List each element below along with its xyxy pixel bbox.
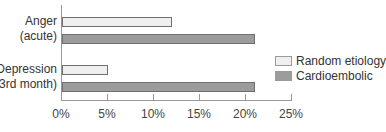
x-axis-line (61, 100, 292, 101)
x-tick (245, 94, 246, 101)
legend-label: Random etiology (296, 54, 386, 68)
x-tick-label: 5% (98, 107, 115, 121)
legend-label: Cardioembolic (296, 69, 373, 83)
x-tick (291, 94, 292, 101)
x-tick-label: 20% (233, 107, 257, 121)
x-tick-label: 15% (187, 107, 211, 121)
bar-random-etiology (62, 65, 108, 75)
bar-random-etiology (62, 17, 172, 27)
x-tick-label: 10% (141, 107, 165, 121)
category-label-line: (acute) (20, 29, 57, 44)
x-tick (153, 94, 154, 101)
bar-cardioembolic (62, 82, 255, 92)
legend-swatch (275, 56, 292, 66)
legend-item-random-etiology: Random etiology (275, 53, 386, 68)
category-label-depression: Depression (3rd month) (0, 62, 57, 92)
category-label-line: (3rd month) (0, 77, 57, 92)
legend: Random etiology Cardioembolic (275, 53, 386, 83)
bar-cardioembolic (62, 34, 255, 44)
x-tick-label: 25% (279, 107, 303, 121)
category-label-line: Anger (20, 14, 57, 29)
x-tick (107, 94, 108, 101)
x-tick-label: 0% (52, 107, 69, 121)
x-tick (199, 94, 200, 101)
legend-swatch (275, 71, 292, 81)
category-label-anger: Anger (acute) (20, 14, 57, 44)
category-label-line: Depression (0, 62, 57, 77)
legend-item-cardioembolic: Cardioembolic (275, 68, 386, 83)
